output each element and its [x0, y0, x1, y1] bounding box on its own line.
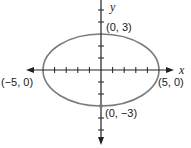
x-axis — [26, 67, 174, 73]
arrow-left-icon — [26, 67, 34, 73]
ellipse-graph: y x (0, 3) (0, −3) (−5, 0) (5, 0) — [0, 0, 191, 148]
x-axis-label: x — [178, 63, 185, 77]
y-axis-label: y — [109, 0, 116, 14]
arrow-right-icon — [166, 67, 174, 73]
label-left-vertex: (−5, 0) — [1, 76, 33, 88]
label-top-vertex: (0, 3) — [106, 21, 132, 33]
y-axis — [98, 0, 104, 145]
label-right-vertex: (5, 0) — [158, 76, 184, 88]
arrow-down-icon — [98, 137, 104, 145]
point-bottom-vertex — [99, 104, 103, 108]
label-bottom-vertex: (0, −3) — [105, 107, 137, 119]
graph-canvas: y x (0, 3) (0, −3) (−5, 0) (5, 0) — [0, 0, 191, 148]
